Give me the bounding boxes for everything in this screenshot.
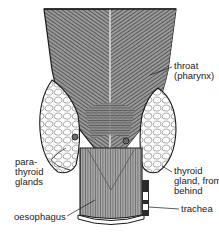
parathyroid-gland-upper-left [72, 134, 78, 140]
label-thyroid-gland: thyroid gland, from behind [174, 166, 219, 196]
label-oesophagus: oesophagus [14, 212, 66, 222]
anatomy-illustration [0, 0, 219, 232]
leader-trachea [149, 207, 179, 209]
leader-thyroid [162, 166, 172, 172]
parathyroid-gland-upper-right [123, 138, 129, 144]
label-parathyroid-glands: para- thyroid glands [15, 157, 44, 187]
trachea [142, 180, 149, 216]
label-throat-pharynx: throat (pharynx) [174, 61, 214, 81]
label-trachea: trachea [181, 204, 213, 214]
oesophagus [78, 148, 144, 225]
